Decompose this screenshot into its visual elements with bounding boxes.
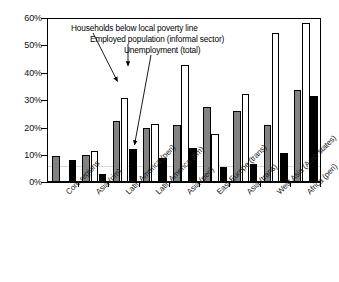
y-tick-label-0: 0% (29, 177, 42, 187)
bar-chart: 0% 10% 20% 30% 40% 50% 60% Core regionsA… (0, 0, 339, 282)
annotation-households-label: Households below local poverty line (71, 23, 198, 33)
y-tick-label-60: 60% (24, 13, 42, 23)
bar (272, 33, 280, 182)
y-tick-label-10: 10% (24, 150, 42, 160)
bar-group (260, 19, 290, 182)
x-axis-line (47, 182, 321, 183)
annotation-employed-label: Employed population (informal sector) (90, 34, 224, 44)
y-tick-label-40: 40% (24, 68, 42, 78)
bar (52, 156, 60, 182)
y-tick-label-20: 20% (24, 123, 42, 133)
y-tick-label-50: 50% (24, 40, 42, 50)
bar (310, 96, 318, 182)
y-tick-label-30: 30% (24, 95, 42, 105)
bar (121, 98, 129, 182)
annotation-unemployment-label: Unemployment (total) (124, 45, 200, 55)
bar-group (48, 19, 78, 182)
